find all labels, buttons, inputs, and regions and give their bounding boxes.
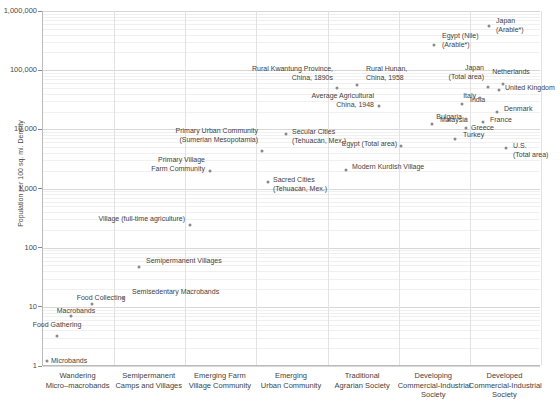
y-axis-tick-text: 1,000 xyxy=(18,184,37,193)
gridline-vertical xyxy=(541,11,542,365)
data-point[interactable] xyxy=(465,127,468,130)
gridline-minor xyxy=(43,17,540,18)
y-axis-tick-text: 100,000 xyxy=(10,65,37,74)
gridline-minor xyxy=(43,52,540,53)
gridline-minor xyxy=(43,230,540,231)
gridline-minor xyxy=(43,198,540,199)
gridline-major xyxy=(43,11,540,12)
data-point[interactable] xyxy=(496,111,499,114)
data-point[interactable] xyxy=(267,181,270,184)
gridline-minor xyxy=(43,83,540,84)
gridline-minor xyxy=(43,202,540,203)
data-point-label: United Kingdom xyxy=(505,84,555,93)
gridline-minor xyxy=(43,112,540,113)
data-point-label: Rural Hunan, China, 1958 xyxy=(366,65,407,82)
data-point[interactable] xyxy=(189,224,192,227)
data-point-label: U.S. (Total area) xyxy=(513,142,548,159)
gridline-minor xyxy=(43,212,540,213)
y-axis-title: Population per 100 sq. mi. Density xyxy=(17,84,24,264)
gridline-minor xyxy=(43,14,540,15)
gridline-minor xyxy=(43,325,540,326)
data-point[interactable] xyxy=(285,133,288,136)
gridline-minor xyxy=(43,316,540,317)
data-point[interactable] xyxy=(487,86,490,89)
data-point[interactable] xyxy=(454,138,457,141)
gridline-minor xyxy=(43,206,540,207)
data-point[interactable] xyxy=(400,145,403,148)
gridline-minor xyxy=(43,257,540,258)
x-axis-category-label: Emerging Urban Community xyxy=(255,371,326,390)
data-point[interactable] xyxy=(356,84,359,87)
x-axis-category-label: Wandering Micro–macrobands xyxy=(42,371,113,390)
data-point[interactable] xyxy=(91,303,94,306)
gridline-minor xyxy=(43,101,540,102)
data-point[interactable] xyxy=(433,44,436,47)
gridline-minor xyxy=(43,271,540,272)
y-axis-tick-text: 10,000 xyxy=(14,124,37,133)
data-point[interactable] xyxy=(56,335,59,338)
data-point[interactable] xyxy=(209,170,212,173)
gridline-minor xyxy=(43,265,540,266)
gridline-vertical xyxy=(185,11,186,365)
gridline-minor xyxy=(43,330,540,331)
data-point[interactable] xyxy=(482,121,485,124)
x-axis-category-label: Developing Commercial-Industrial Society xyxy=(398,371,469,400)
gridline-minor xyxy=(43,29,540,30)
data-point-label: Egypt (Total area) xyxy=(342,140,397,149)
x-axis-category-label: Semipermanent Camps and Villages xyxy=(113,371,184,390)
gridline-minor xyxy=(43,194,540,195)
data-point[interactable] xyxy=(46,360,49,363)
gridline-major xyxy=(43,366,540,367)
gridline-minor xyxy=(43,250,540,251)
data-point-label: Food Gathering xyxy=(0,321,117,330)
data-point[interactable] xyxy=(498,89,501,92)
data-point-label: Denmark xyxy=(504,105,532,114)
gridline-minor xyxy=(43,171,540,172)
data-point-label: Primary Village Farm Community xyxy=(151,156,205,173)
data-point-label: Japan (Arable*) xyxy=(496,17,524,34)
gridline-minor xyxy=(43,153,540,154)
data-point[interactable] xyxy=(345,169,348,172)
gridline-minor xyxy=(43,338,540,339)
data-point-label: Egypt (Nile) (Arable*) xyxy=(442,32,479,49)
data-point[interactable] xyxy=(465,118,468,121)
data-point-label: Primary Urban Community (Sumerian Mesopo… xyxy=(176,127,258,144)
data-point-label: Sacred Cities (Tehuacán, Mex.) xyxy=(273,176,327,193)
data-point[interactable] xyxy=(122,297,125,300)
data-point[interactable] xyxy=(461,103,464,106)
x-axis-category-label: Traditional Agrarian Society xyxy=(327,371,398,390)
data-point-label: Semisedentary Macrobands xyxy=(132,288,219,297)
data-point[interactable] xyxy=(479,97,482,100)
data-point[interactable] xyxy=(336,87,339,90)
gridline-minor xyxy=(43,320,540,321)
data-point[interactable] xyxy=(138,266,141,269)
gridline-minor xyxy=(43,88,540,89)
data-point-label: Bulgaria xyxy=(436,113,462,122)
gridline-minor xyxy=(43,20,540,21)
gridline-minor xyxy=(43,279,540,280)
data-point-label: Macrobands xyxy=(16,307,136,316)
data-point[interactable] xyxy=(488,25,491,28)
data-point-label: Secular Cities (Tehuacán, Mex.) xyxy=(292,128,346,145)
gridline-minor xyxy=(43,253,540,254)
data-point-label: Italy xyxy=(463,92,476,101)
data-point[interactable] xyxy=(505,147,508,150)
data-point-label: Netherlands xyxy=(451,68,560,77)
data-point-label: Rural Kwantung Province, China, 1890s xyxy=(252,65,333,82)
data-point-label: Microbands xyxy=(51,357,87,366)
data-point-label: Average Agricultural China, 1948 xyxy=(311,92,374,109)
data-point-label: Greece xyxy=(471,124,494,133)
data-point[interactable] xyxy=(431,123,434,126)
data-point[interactable] xyxy=(261,150,264,153)
gridline-minor xyxy=(43,261,540,262)
gridline-major xyxy=(43,248,540,249)
y-axis-tick-text: 1 xyxy=(33,361,37,370)
x-axis-category-label: Developed Commercial-Industrial Society xyxy=(469,371,540,400)
data-point-label: France xyxy=(490,116,512,125)
gridline-minor xyxy=(43,24,540,25)
data-point-label: Modern Kurdish Village xyxy=(352,163,424,172)
gridline-minor xyxy=(43,289,540,290)
gridline-minor xyxy=(43,160,540,161)
data-point[interactable] xyxy=(378,105,381,108)
